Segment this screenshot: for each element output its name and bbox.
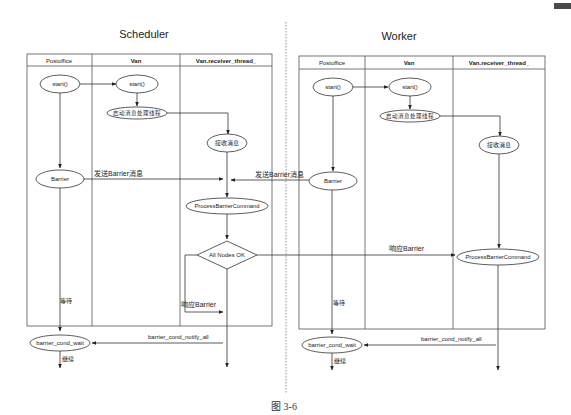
figure-caption: 图 3-6 (271, 401, 297, 412)
worker-barrier-label: Barrier (324, 178, 342, 184)
scheduler-frame (27, 54, 272, 326)
scheduler-start-thread-label: 启动消息处理线程 (113, 109, 161, 117)
worker-lane-van: Van (404, 60, 415, 66)
scheduler-receive-msg-label: 接收消息 (215, 139, 239, 147)
scheduler-title: Scheduler (119, 28, 169, 40)
scheduler-barrier-label: Barrier (51, 176, 69, 182)
worker-process-barrier-label: ProcessBarrierCommand (465, 254, 530, 260)
worker-continue-label: 继续 (334, 357, 346, 365)
worker-barrier-wait-label: barrier_cond_wait (308, 342, 356, 348)
sequence-diagram: Scheduler Postoffice Van Van.receiver_th… (0, 0, 571, 415)
worker-notify-all-label: barrier_cond_notify_all (421, 336, 482, 342)
scheduler-respond-barrier-label: 响应Barrier (181, 300, 217, 309)
worker-postoffice-start-label: start() (325, 84, 341, 90)
scheduler-lane-receiver-thread: Van.receiver_thread_ (196, 58, 257, 64)
scheduler-lane-van: Van (131, 58, 142, 64)
scheduler-panel: Scheduler Postoffice Van Van.receiver_th… (27, 28, 272, 368)
worker-start-thread-label: 启动消息处理线程 (386, 112, 434, 120)
worker-respond-barrier-label: 响应Barrier (389, 244, 425, 253)
worker-van-start-label: start() (402, 84, 418, 90)
worker-title: Worker (381, 30, 417, 42)
scheduler-all-nodes-ok-label: All Nodes OK (209, 252, 245, 258)
worker-receive-msg-label: 接收消息 (487, 141, 511, 149)
scheduler-continue-label: 继续 (62, 355, 74, 363)
worker-lane-receiver-thread: Van.receiver_thread_ (469, 60, 530, 66)
scheduler-wait-label: 等待 (60, 297, 72, 305)
worker-frame (299, 56, 545, 329)
scheduler-send-barrier-label: 发送Barrier消息 (94, 169, 143, 178)
worker-panel: Worker Postoffice Van Van.receiver_threa… (231, 30, 545, 370)
scheduler-barrier-wait-label: barrier_cond_wait (36, 340, 84, 346)
worker-lane-postoffice: Postoffice (319, 60, 346, 66)
worker-send-barrier-label: 发送Barrier消息 (255, 170, 304, 179)
scheduler-process-barrier-label: ProcessBarrierCommand (194, 203, 259, 209)
worker-wait-label: 等待 (333, 299, 345, 307)
scheduler-postoffice-start-label: start() (52, 81, 68, 87)
scheduler-notify-all-label: barrier_cond_notify_all (148, 334, 209, 340)
scheduler-lane-postoffice: Postoffice (46, 58, 73, 64)
scheduler-van-start-label: start() (129, 81, 145, 87)
